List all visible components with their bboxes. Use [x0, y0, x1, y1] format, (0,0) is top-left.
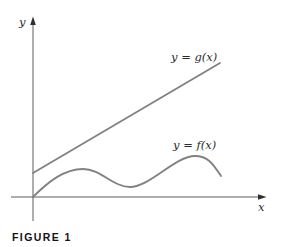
x-axis-arrow-icon	[258, 194, 267, 200]
f-wavy-curve	[33, 156, 221, 197]
figure-caption: FIGURE 1	[12, 231, 72, 243]
y-axis-label: y	[18, 15, 26, 29]
f-curve-annotation: y = f(x)	[172, 138, 216, 152]
x-axis-label: x	[258, 200, 265, 214]
figure-canvas: y x y = g(x) y = f(x) FIGURE 1	[0, 0, 284, 247]
y-axis-arrow-icon	[30, 17, 36, 26]
g-curve-annotation: y = g(x)	[170, 50, 217, 64]
figure-1-graph: y x y = g(x) y = f(x) FIGURE 1	[0, 0, 284, 247]
